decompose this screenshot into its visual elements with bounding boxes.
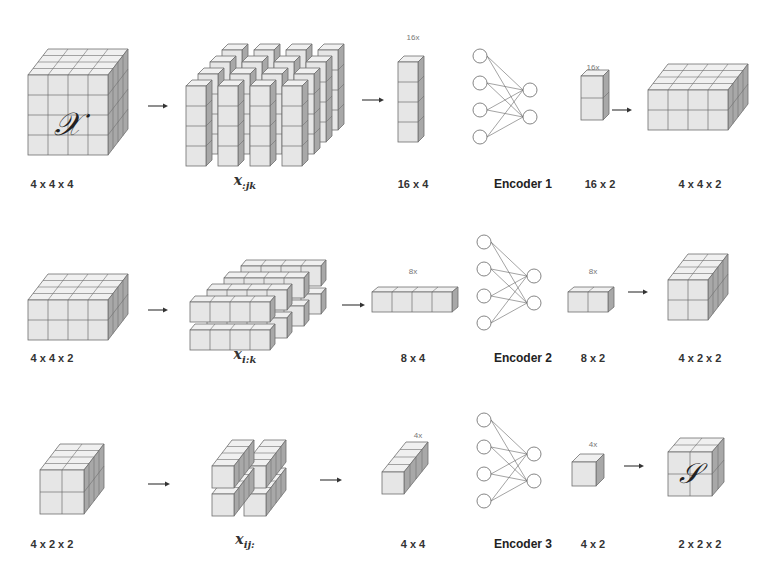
row3-arrow-3	[624, 464, 644, 469]
row1-output-cube-4x4x2	[648, 64, 748, 130]
row3-input-label: 4 x 2 x 2	[31, 538, 74, 550]
row2-slice-sub: i:k	[242, 354, 256, 365]
row3-slice-label: xij:	[235, 531, 254, 550]
row1-output-label: 4 x 4 x 2	[679, 178, 722, 190]
row3-reshape-label: 4 x 4	[401, 538, 425, 550]
row3-encoded-label: 4 x 2	[581, 538, 605, 550]
row3-reshaped-4x4	[382, 442, 428, 494]
input-node-icon	[473, 76, 487, 90]
input-node-icon	[477, 316, 491, 330]
encoder-2-network-icon	[477, 235, 541, 330]
row2-encoded-label: 8 x 2	[581, 352, 605, 364]
input-node-icon	[473, 130, 487, 144]
row2-output-cube-4x2x2	[668, 254, 728, 320]
row1-arrow-2	[362, 98, 384, 103]
input-node-icon	[477, 235, 491, 249]
row2-slices-x-ik	[190, 260, 326, 350]
row2-output-label: 4 x 2 x 2	[679, 352, 722, 364]
row-slice	[190, 324, 275, 350]
row2-input-cube-4x4x2	[28, 274, 128, 340]
row3-fibers-x-ij	[212, 440, 286, 516]
row3-reshape-count: 4x	[414, 431, 422, 440]
row3-arrow-1	[148, 482, 170, 487]
row-slice	[190, 296, 275, 322]
row2-arrow-2	[342, 303, 365, 308]
row1-reshaped-16x4	[398, 56, 424, 142]
row2-arrow-3	[628, 290, 648, 295]
row1-fibers-x-jk	[186, 44, 344, 166]
row3-input-cube-4x2x2	[40, 444, 104, 514]
encoder-1-network-icon	[473, 49, 537, 144]
output-node-icon	[527, 269, 541, 283]
row2-input-label: 4 x 4 x 2	[31, 352, 74, 364]
row1-encoded-label: 16 x 2	[585, 178, 616, 190]
fiber-column	[282, 80, 308, 166]
input-node-icon	[477, 467, 491, 481]
fiber-column	[186, 80, 212, 166]
input-node-icon	[477, 289, 491, 303]
output-node-icon	[527, 447, 541, 461]
row2-slice-label: xi:k	[234, 346, 257, 365]
encoder-3-network-icon	[477, 413, 541, 508]
row1-encoded-16x2	[581, 70, 609, 120]
row3-arrow-2	[320, 478, 342, 483]
row3-encoded-4x2	[572, 454, 604, 486]
input-node-icon	[473, 49, 487, 63]
row3-encoded-count: 4x	[589, 440, 597, 449]
row3-encoder-label: Encoder 3	[494, 537, 552, 551]
row2-reshape-label: 8 x 4	[401, 352, 425, 364]
row1-arrow-1	[148, 104, 168, 109]
row2-encoded-count: 8x	[589, 267, 597, 276]
row1-encoder-label: Encoder 1	[494, 177, 552, 191]
row1-input-label: 4 x 4 x 4	[31, 178, 74, 190]
row2-reshaped-8x4	[372, 287, 458, 312]
row2-encoder-label: Encoder 2	[494, 351, 552, 365]
row1-slice-label: x:jk	[234, 172, 257, 191]
row1-encoded-count: 16x	[587, 63, 600, 72]
output-node-icon	[527, 474, 541, 488]
row1-reshape-count: 16x	[407, 33, 420, 42]
output-node-icon	[527, 296, 541, 310]
fiber-column	[218, 80, 244, 166]
row1-slice-sub: :jk	[242, 180, 256, 191]
output-node-icon	[523, 110, 537, 124]
row1-arrow-3	[612, 108, 632, 113]
output-node-icon	[523, 83, 537, 97]
row2-reshape-count: 8x	[409, 267, 417, 276]
input-node-icon	[477, 262, 491, 276]
row3-slice-sub: ij:	[244, 539, 255, 550]
input-node-icon	[477, 413, 491, 427]
row2-arrow-1	[148, 308, 168, 313]
diagram-canvas: 𝒳𝒮	[0, 0, 765, 572]
row1-reshape-label: 16 x 4	[398, 178, 429, 190]
row2-encoded-8x2	[568, 287, 614, 312]
fiber-column	[250, 80, 276, 166]
row3-output-label: 2 x 2 x 2	[679, 538, 722, 550]
input-node-icon	[477, 440, 491, 454]
input-node-icon	[477, 494, 491, 508]
input-node-icon	[473, 103, 487, 117]
